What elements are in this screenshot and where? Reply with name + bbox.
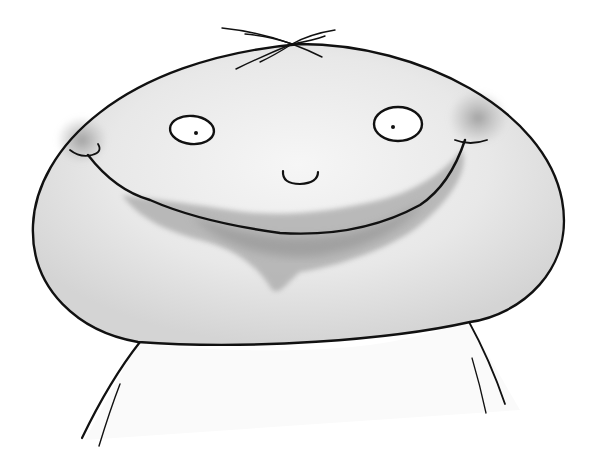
left-cheek bbox=[56, 116, 108, 164]
illustration-canvas: smiling round-headed character bbox=[0, 0, 597, 466]
head bbox=[33, 44, 564, 345]
right-cheek bbox=[448, 90, 508, 146]
right-eye bbox=[374, 107, 422, 141]
face-illustration bbox=[0, 0, 597, 466]
